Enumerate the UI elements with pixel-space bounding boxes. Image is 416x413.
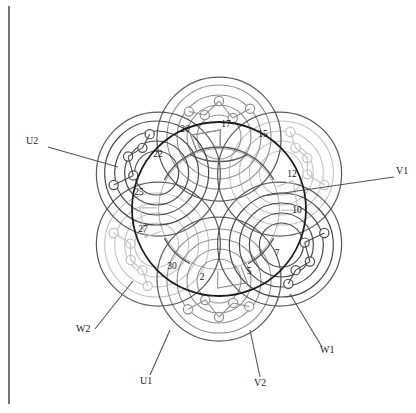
terminal-leader-line bbox=[250, 330, 260, 377]
winding-jumper bbox=[305, 233, 325, 243]
terminal-leader-line bbox=[95, 281, 133, 329]
slot-number-5: 5 bbox=[247, 266, 252, 276]
leader-group bbox=[48, 147, 394, 377]
winding-jumper bbox=[114, 233, 131, 244]
coil-group bbox=[167, 85, 271, 189]
slot-number-22: 22 bbox=[153, 149, 163, 159]
winding-node bbox=[145, 130, 154, 139]
winding-node bbox=[320, 228, 329, 237]
slot-number-7: 7 bbox=[275, 248, 280, 258]
slot-number-17: 17 bbox=[221, 119, 231, 129]
winding-jumper bbox=[307, 174, 324, 185]
winding-node bbox=[109, 228, 118, 237]
terminal-leader-line bbox=[263, 177, 394, 196]
terminal-label-v1: V1 bbox=[396, 165, 408, 176]
slot-number-30: 30 bbox=[167, 261, 177, 271]
coil-group bbox=[167, 229, 271, 333]
terminal-leader-line bbox=[150, 330, 170, 375]
slot-number-10: 10 bbox=[292, 205, 302, 215]
winding-node bbox=[184, 107, 193, 116]
slot-number-27: 27 bbox=[138, 224, 148, 234]
stator-winding-svg bbox=[0, 0, 416, 413]
terminal-label-w1: W1 bbox=[320, 344, 334, 355]
coil-end-arc bbox=[259, 223, 303, 267]
figure-canvas: U2V1W2W1U1V2172015221225102773052 bbox=[0, 0, 416, 413]
coil-outer-arc bbox=[157, 217, 281, 341]
slot-number-20: 20 bbox=[180, 124, 190, 134]
terminal-label-w2: W2 bbox=[76, 323, 90, 334]
slot-number-25: 25 bbox=[134, 187, 144, 197]
terminal-leader-line bbox=[290, 294, 322, 347]
terminal-label-v2: V2 bbox=[254, 377, 266, 388]
coil-outer-arc bbox=[157, 77, 281, 201]
winding-jumper bbox=[205, 101, 219, 115]
winding-jumper bbox=[219, 303, 233, 317]
terminal-label-u2: U2 bbox=[26, 135, 38, 146]
phase-u-group bbox=[96, 77, 341, 341]
slot-number-12: 12 bbox=[287, 169, 297, 179]
slot-number-2: 2 bbox=[200, 272, 205, 282]
terminal-label-u1: U1 bbox=[140, 375, 152, 386]
slot-number-15: 15 bbox=[258, 129, 268, 139]
winding-jumper bbox=[114, 175, 134, 185]
